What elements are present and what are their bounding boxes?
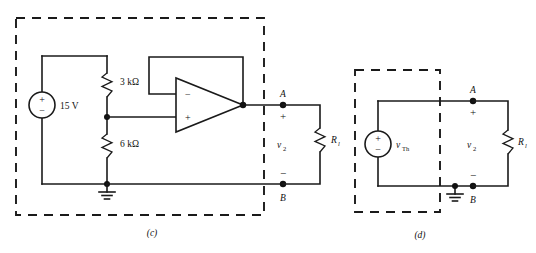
source-minus-sign-d: − (375, 144, 381, 155)
terminal-label-a-c: A (279, 89, 286, 99)
opamp-noninverting-input-sign: + (185, 112, 191, 123)
opamp-inverting-input-sign: − (185, 89, 191, 100)
wire-d-load-top (473, 101, 508, 130)
output-voltage-symbol-c: v (277, 140, 282, 150)
load-resistor-symbol-c (315, 128, 325, 152)
terminal-label-b-d: B (470, 195, 476, 205)
source-plus-sign-d: + (375, 133, 381, 144)
load-resistor-subscript-c: l (338, 140, 340, 147)
output-voltage-subscript-d: 2 (473, 145, 476, 152)
caption-d: (d) (414, 230, 425, 241)
ground-symbol-c (99, 184, 115, 199)
source-minus-sign-c: − (39, 105, 45, 116)
circuit-d-group: + − v Th A B + − v 2 R l (355, 70, 527, 241)
load-resistor-label-d: R l (517, 137, 527, 149)
terminal-label-a-d: A (469, 85, 476, 95)
source-plus-sign-c: + (39, 94, 45, 105)
operational-amplifier-c (176, 78, 243, 132)
circuit-c-group: + − 15 V 3 kΩ 6 kΩ − (16, 18, 340, 239)
caption-c: (c) (147, 228, 158, 239)
load-resistor-symbol-d (503, 130, 513, 154)
resistor-6k-label: 6 kΩ (120, 139, 139, 149)
thevenin-source-label-d: v Th (396, 140, 410, 152)
resistor-3k-symbol (102, 73, 112, 97)
wire-c-load-bottom (283, 152, 320, 184)
output-voltage-subscript-c: 2 (283, 145, 286, 152)
figure-container: + − 15 V 3 kΩ 6 kΩ − (0, 0, 536, 253)
load-resistor-label-c: R l (330, 135, 340, 147)
terminal-minus-sign-c: − (280, 167, 286, 179)
output-voltage-label-d: v 2 (467, 140, 476, 152)
output-voltage-symbol-d: v (467, 140, 472, 150)
thevenin-source-symbol-d: v (396, 140, 401, 150)
resistor-3k-label: 3 kΩ (120, 77, 139, 87)
terminal-label-b-c: B (280, 193, 286, 203)
output-voltage-label-c: v 2 (277, 140, 286, 152)
node-opamp-output (240, 102, 246, 108)
resistor-6k-symbol (102, 134, 112, 158)
thevenin-source-subscript-d: Th (402, 145, 410, 152)
terminal-plus-sign-c: + (280, 110, 286, 122)
wire-c-load-top (283, 105, 320, 128)
terminal-plus-sign-d: + (470, 106, 476, 118)
wire-d-load-bottom (473, 154, 508, 186)
node-ground-d (452, 183, 458, 189)
load-resistor-subscript-d: l (525, 142, 527, 149)
load-resistor-symbol-text-d: R (517, 137, 524, 147)
terminal-minus-sign-d: − (470, 169, 476, 181)
load-resistor-symbol-text-c: R (330, 135, 337, 145)
source-value-label-c: 15 V (60, 101, 79, 111)
